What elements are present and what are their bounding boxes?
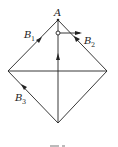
label-a: A <box>53 7 61 18</box>
rhombus-outline <box>8 20 107 123</box>
vertical-arrowhead-icon <box>56 53 60 60</box>
cropped-caption <box>50 145 65 147</box>
label-b3-sub: 3 <box>22 98 26 106</box>
right-edge-arrowhead-icon <box>74 36 80 42</box>
apex-dot <box>57 19 60 22</box>
pivot-circle-icon <box>56 31 60 35</box>
square-diagram: A B 1 B 2 B 3 <box>0 0 118 147</box>
label-b1-sub: 1 <box>31 35 35 43</box>
b2-arrowhead-icon <box>75 31 82 35</box>
label-b2-sub: 2 <box>91 41 95 49</box>
b3-arrowhead-icon <box>21 84 27 90</box>
